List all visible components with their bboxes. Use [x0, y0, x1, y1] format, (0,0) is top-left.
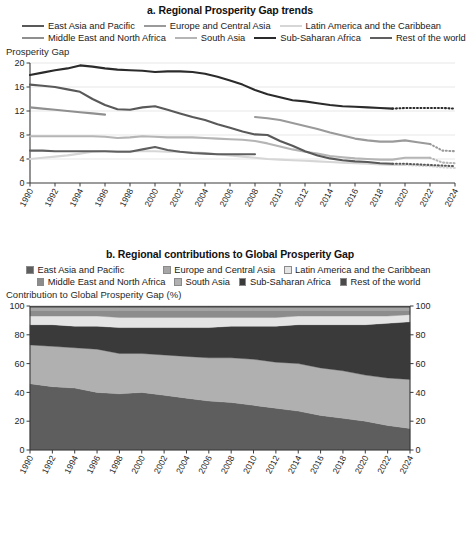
- legend-label: South Asia: [185, 276, 229, 288]
- panel-b: b. Regional contributions to Global Pros…: [0, 244, 460, 505]
- svg-text:2014: 2014: [286, 454, 304, 476]
- svg-text:0: 0: [416, 445, 421, 455]
- svg-text:2008: 2008: [219, 454, 237, 476]
- svg-text:2024: 2024: [397, 454, 415, 476]
- legend-label: Latin America and the Caribbean: [295, 264, 430, 276]
- legend-item-sub-saharan-africa[interactable]: Sub-Saharan Africa: [254, 32, 361, 44]
- box-swatch-icon: [174, 278, 182, 286]
- box-swatch-icon: [284, 266, 292, 274]
- svg-text:2020: 2020: [353, 454, 371, 476]
- svg-text:16: 16: [14, 82, 24, 92]
- line-swatch-icon: [175, 37, 197, 39]
- svg-text:100: 100: [416, 301, 431, 311]
- legend-item-east-asia-and-pacific[interactable]: East Asia and Pacific: [26, 264, 124, 276]
- svg-text:40: 40: [14, 388, 24, 398]
- svg-text:2006: 2006: [217, 187, 235, 209]
- svg-text:1996: 1996: [92, 187, 110, 209]
- panel-a-title: a. Regional Prosperity Gap trends: [0, 0, 460, 19]
- footnote: [104, 525, 456, 535]
- panel-b-plot: 0204060801000204060801001990199219941996…: [0, 300, 460, 505]
- legend-item-rest-of-the-world[interactable]: Rest of the world: [370, 32, 466, 44]
- legend-label: East Asia and Pacific: [37, 264, 124, 276]
- legend-item-middle-east-and-north-africa[interactable]: Middle East and North Africa: [37, 276, 166, 288]
- svg-text:40: 40: [416, 388, 426, 398]
- svg-text:2016: 2016: [342, 187, 360, 209]
- svg-text:2002: 2002: [152, 454, 170, 476]
- svg-text:2022: 2022: [417, 187, 435, 209]
- legend-label: Sub-Saharan Africa: [250, 276, 331, 288]
- svg-text:1994: 1994: [67, 187, 85, 209]
- legend-item-rest-of-the-world[interactable]: Rest of the world: [340, 276, 421, 288]
- legend-item-europe-and-central-asia[interactable]: Europe and Central Asia: [163, 264, 275, 276]
- svg-text:2020: 2020: [392, 187, 410, 209]
- panel-b-legend: East Asia and Pacific Europe and Central…: [0, 263, 460, 289]
- panel-a-svg: 0481216201990199219941996199820002002200…: [0, 57, 460, 242]
- svg-text:2004: 2004: [174, 454, 192, 476]
- panel-b-title: b. Regional contributions to Global Pros…: [0, 244, 460, 263]
- panel-b-ylabel: Contribution to Global Prosperity Gap (%…: [0, 289, 460, 300]
- svg-text:2000: 2000: [142, 187, 160, 209]
- svg-text:2002: 2002: [167, 187, 185, 209]
- svg-text:0: 0: [19, 445, 24, 455]
- svg-text:1998: 1998: [117, 187, 135, 209]
- box-swatch-icon: [26, 266, 34, 274]
- panel-a-plot: 0481216201990199219941996199820002002200…: [0, 57, 460, 242]
- svg-text:2016: 2016: [308, 454, 326, 476]
- svg-text:2022: 2022: [375, 454, 393, 476]
- line-swatch-icon: [144, 25, 166, 27]
- panel-a-ylabel: Prosperity Gap: [0, 46, 460, 57]
- svg-text:0: 0: [19, 178, 24, 188]
- svg-text:1990: 1990: [17, 187, 35, 209]
- box-swatch-icon: [239, 278, 247, 286]
- svg-text:2012: 2012: [263, 454, 281, 476]
- svg-text:2014: 2014: [317, 187, 335, 209]
- svg-text:20: 20: [14, 58, 24, 68]
- legend-label: Middle East and North Africa: [48, 32, 166, 44]
- legend-label: Europe and Central Asia: [170, 20, 271, 32]
- svg-text:80: 80: [416, 330, 426, 340]
- svg-text:8: 8: [19, 130, 24, 140]
- svg-text:2010: 2010: [241, 454, 259, 476]
- svg-text:12: 12: [14, 106, 24, 116]
- legend-label: Rest of the world: [396, 32, 466, 44]
- legend-item-sub-saharan-africa[interactable]: Sub-Saharan Africa: [239, 276, 331, 288]
- box-swatch-icon: [37, 278, 45, 286]
- legend-label: Sub-Saharan Africa: [280, 32, 361, 44]
- svg-text:2000: 2000: [129, 454, 147, 476]
- svg-text:2012: 2012: [292, 187, 310, 209]
- svg-text:1992: 1992: [42, 187, 60, 209]
- svg-text:2024: 2024: [442, 187, 460, 209]
- legend-item-east-asia-and-pacific[interactable]: East Asia and Pacific: [22, 20, 135, 32]
- panel-b-svg: 0204060801000204060801001990199219941996…: [0, 300, 460, 505]
- svg-text:1990: 1990: [17, 454, 35, 476]
- legend-label: Middle East and North Africa: [48, 276, 166, 288]
- svg-text:20: 20: [14, 416, 24, 426]
- svg-text:60: 60: [416, 359, 426, 369]
- legend-item-latin-america-and-the-caribbean[interactable]: Latin America and the Caribbean: [284, 264, 430, 276]
- svg-text:100: 100: [9, 301, 24, 311]
- legend-item-latin-america-and-the-caribbean[interactable]: Latin America and the Caribbean: [280, 20, 441, 32]
- line-swatch-icon: [254, 37, 276, 39]
- svg-text:1996: 1996: [85, 454, 103, 476]
- svg-text:4: 4: [19, 154, 24, 164]
- line-swatch-icon: [22, 25, 44, 27]
- line-swatch-icon: [280, 25, 302, 27]
- legend-label: Latin America and the Caribbean: [306, 20, 441, 32]
- legend-label: East Asia and Pacific: [48, 20, 135, 32]
- svg-text:2008: 2008: [242, 187, 260, 209]
- line-swatch-icon: [22, 37, 44, 39]
- panel-a: a. Regional Prosperity Gap trends East A…: [0, 0, 460, 242]
- svg-text:2018: 2018: [367, 187, 385, 209]
- legend-item-middle-east-and-north-africa[interactable]: Middle East and North Africa: [22, 32, 166, 44]
- svg-text:2004: 2004: [192, 187, 210, 209]
- svg-text:2010: 2010: [267, 187, 285, 209]
- svg-text:60: 60: [14, 359, 24, 369]
- legend-item-europe-and-central-asia[interactable]: Europe and Central Asia: [144, 20, 271, 32]
- svg-text:80: 80: [14, 330, 24, 340]
- svg-text:2018: 2018: [330, 454, 348, 476]
- svg-text:1992: 1992: [40, 454, 58, 476]
- legend-item-south-asia[interactable]: South Asia: [174, 276, 229, 288]
- legend-item-south-asia[interactable]: South Asia: [175, 32, 245, 44]
- panel-a-legend: East Asia and Pacific Europe and Central…: [0, 19, 460, 46]
- svg-text:1998: 1998: [107, 454, 125, 476]
